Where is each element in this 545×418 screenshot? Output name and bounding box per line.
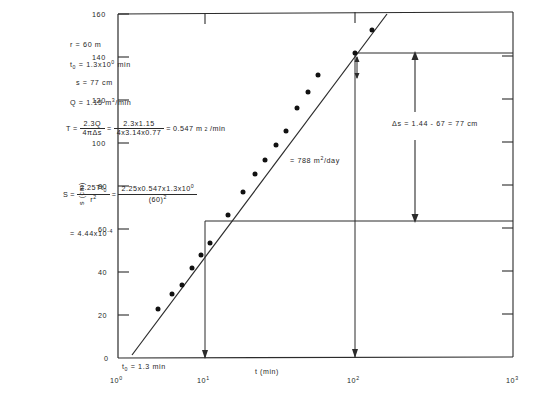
delta-s-arrow xyxy=(412,51,419,223)
transmissivity-result-day: = 788 m2/day xyxy=(290,155,340,165)
t-result: 0.547 m xyxy=(173,124,202,133)
t0-marker-label: t0 = 1.3 min xyxy=(122,362,166,372)
transmissivity-equation: T = 2.3Q 4πΔs = 2.3x1.15 4x3.14x0.77 = 0… xyxy=(66,120,226,138)
s-fraction-1: 2.25Tt0 r2 xyxy=(77,184,110,204)
x-tick-1e3: 103 xyxy=(506,375,519,385)
y-axis-ticks-right xyxy=(502,56,513,314)
storativity-equation: S = 2.25Tt0 r2 = 2.25x0.547x1.3x100 (60)… xyxy=(63,184,197,204)
y-tick-0: 0 xyxy=(104,354,109,363)
given-q: Q = 1.15 m3/min xyxy=(70,97,131,107)
y-tick-160: 160 xyxy=(92,10,106,19)
x-tick-1e1: 101 xyxy=(197,375,210,385)
given-r: r = 60 m xyxy=(70,40,101,49)
s-fraction-2: 2.25x0.547x1.3x100 (60)2 xyxy=(118,184,197,204)
x-tick-1e0: 100 xyxy=(110,375,123,385)
storativity-result: = 4.44x10-4 xyxy=(70,228,113,238)
s-symbol: S xyxy=(63,190,68,199)
y-tick-100: 100 xyxy=(92,139,106,148)
given-t0: t0 = 1.3x100 min xyxy=(70,59,131,70)
x-axis-label: t (min) xyxy=(255,368,279,375)
figure-canvas: 160 140 120 100 80 60 40 20 0 s (cm) 100… xyxy=(0,0,545,418)
delta-s-label: Δs = 1.44 - 67 = 77 cm xyxy=(392,119,478,128)
t-symbol: T xyxy=(66,124,71,133)
x-tick-1e2: 102 xyxy=(347,375,360,385)
y-tick-40: 40 xyxy=(98,268,107,277)
t-fraction-1: 2.3Q 4πΔs xyxy=(80,120,105,138)
construction-lines xyxy=(205,53,513,358)
y-tick-20: 20 xyxy=(98,311,107,320)
given-s: s = 77 cm xyxy=(76,78,113,87)
data-points xyxy=(156,28,375,312)
t-fraction-2: 2.3x1.15 4x3.14x0.77 xyxy=(114,120,165,138)
